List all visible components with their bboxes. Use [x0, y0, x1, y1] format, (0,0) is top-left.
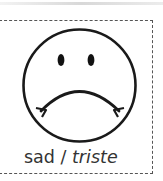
card-caption: sad / triste — [24, 147, 128, 167]
caption-separator: / — [55, 147, 72, 167]
mouth-right-tick — [114, 108, 124, 117]
frown-mouth — [41, 92, 119, 112]
left-eye — [58, 54, 65, 66]
face-outline — [24, 30, 136, 142]
sad-face-icon — [20, 25, 140, 147]
mouth-left-tick — [36, 108, 46, 117]
top-edge-shadow — [0, 2, 163, 5]
caption-english: sad — [24, 147, 55, 167]
right-eye — [88, 54, 95, 66]
caption-translation: triste — [72, 147, 118, 167]
